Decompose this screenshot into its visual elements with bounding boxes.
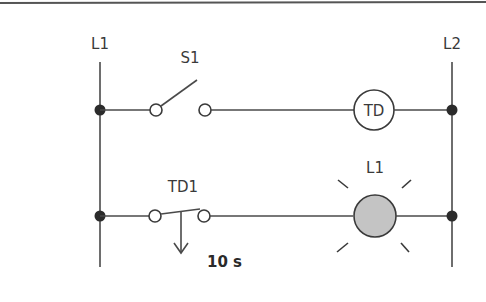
junction-node xyxy=(447,105,458,116)
right-rail-label: L2 xyxy=(443,35,461,53)
switch-s1: S1 xyxy=(150,49,211,116)
left-rail-label: L1 xyxy=(91,35,109,53)
rung-2: TD1 10 s L1 xyxy=(95,159,458,271)
light-ray xyxy=(337,243,348,252)
light-ray xyxy=(402,180,411,188)
light-ray xyxy=(338,180,348,188)
junction-node xyxy=(447,211,458,222)
top-border xyxy=(0,2,486,3)
ladder-diagram: L1 L2 S1 TD xyxy=(0,0,486,302)
lamp-l1: L1 xyxy=(337,159,411,252)
delay-time-label: 10 s xyxy=(207,253,242,271)
left-rail: L1 xyxy=(91,35,109,267)
light-ray xyxy=(401,243,409,252)
timed-contact-label: TD1 xyxy=(167,178,198,196)
lamp-label: L1 xyxy=(366,159,384,177)
switch-s1-label: S1 xyxy=(180,49,199,67)
timer-coil-label: TD xyxy=(363,102,385,120)
right-rail: L2 xyxy=(443,35,461,267)
timed-contact-td1: TD1 10 s xyxy=(149,178,242,271)
timer-coil-td: TD xyxy=(354,90,394,130)
rung-1: S1 TD xyxy=(95,49,458,130)
